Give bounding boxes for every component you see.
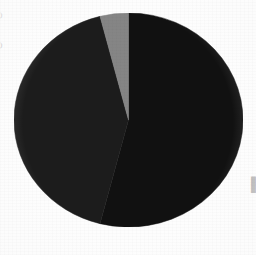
clipped-legend-right: █ █: [251, 177, 256, 193]
clipped-left-label-upper: ): [0, 11, 2, 19]
pie-chart: [14, 13, 243, 227]
pie-chart-svg: [14, 13, 243, 227]
clipped-legend-line-1: █: [251, 177, 256, 185]
clipped-left-label-lower: ): [0, 41, 2, 49]
clipped-legend-line-2: █: [251, 185, 256, 193]
figure-canvas: ) ) █ █: [0, 0, 256, 255]
pie-slice-group: [14, 13, 243, 227]
